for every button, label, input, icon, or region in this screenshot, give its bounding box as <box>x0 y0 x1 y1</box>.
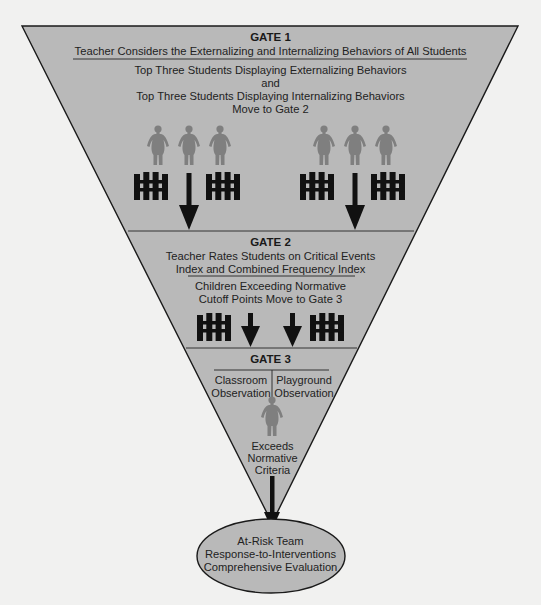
gate1-line: Top Three Students Displaying Internaliz… <box>0 90 541 103</box>
gate3-criteria: Criteria <box>0 464 541 477</box>
outcome-line: Comprehensive Evaluation <box>0 561 541 574</box>
gate2-subtitle: Index and Combined Frequency Index <box>0 263 541 276</box>
gate1-title: GATE 1 <box>0 31 541 44</box>
gate2-subtitle: Teacher Rates Students on Critical Event… <box>0 250 541 263</box>
gate1-subtitle: Teacher Considers the Externalizing and … <box>0 45 541 58</box>
gate3-playground-label: Observation <box>272 387 336 400</box>
gate1-line: Top Three Students Displaying Externaliz… <box>0 64 541 77</box>
gate3-playground-label: Playground <box>272 374 336 387</box>
gate3-classroom-label: Observation <box>210 387 272 400</box>
gate2-title: GATE 2 <box>0 236 541 249</box>
gate3-title: GATE 3 <box>0 353 541 366</box>
gate2-line: Children Exceeding Normative <box>0 280 541 293</box>
gate1-line: and <box>0 77 541 90</box>
outcome-line: At-Risk Team <box>0 535 541 548</box>
outcome-line: Response-to-Interventions <box>0 548 541 561</box>
gate2-line: Cutoff Points Move to Gate 3 <box>0 293 541 306</box>
gate3-classroom-label: Classroom <box>210 374 272 387</box>
gate1-line: Move to Gate 2 <box>0 103 541 116</box>
